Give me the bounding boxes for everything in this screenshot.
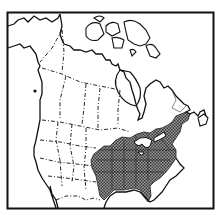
range-map	[0, 0, 222, 215]
island-marker	[33, 89, 36, 92]
